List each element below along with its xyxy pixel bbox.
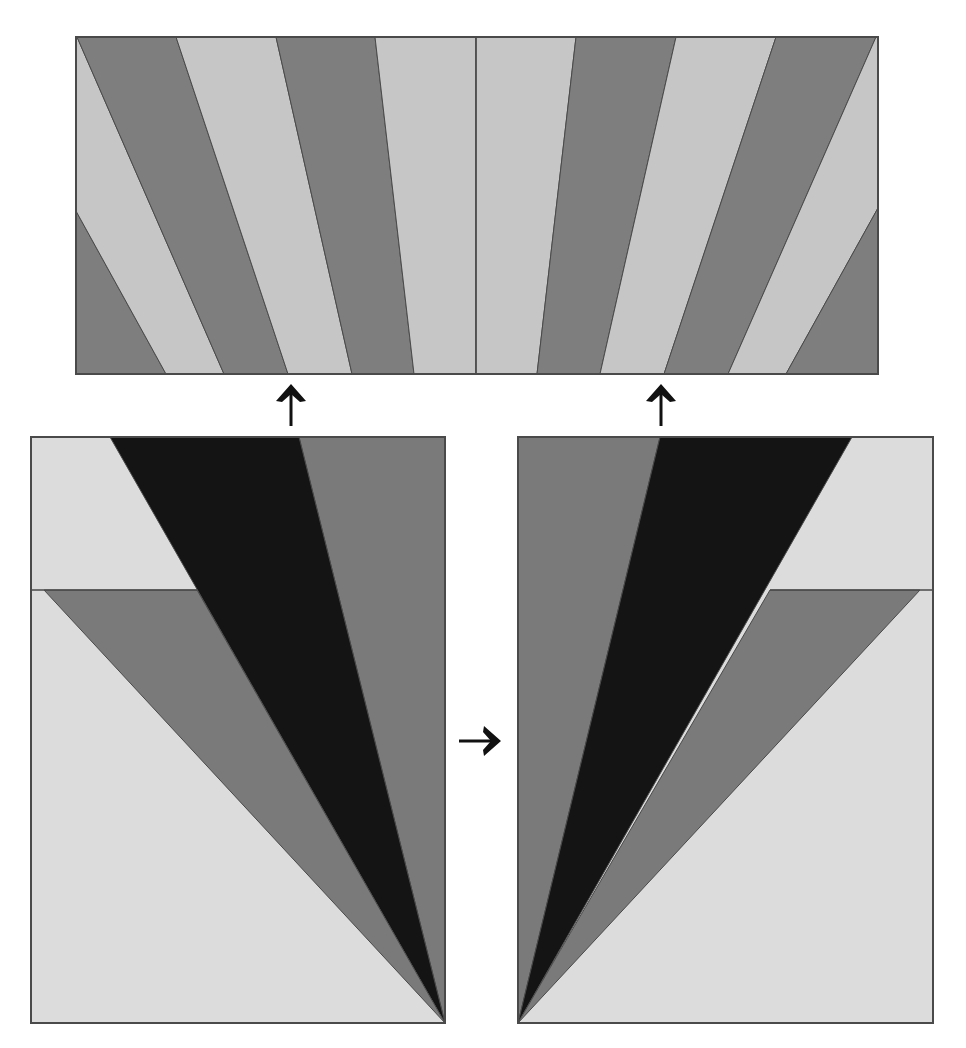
right-fan-block	[518, 437, 933, 1023]
quilt-assembly-diagram	[0, 0, 966, 1048]
left-fan-block	[31, 437, 445, 1023]
diagram-canvas	[0, 0, 966, 1048]
right-arrow-icon	[459, 726, 501, 756]
up-arrow-right-icon	[646, 384, 676, 426]
up-arrow-left-icon	[276, 384, 306, 426]
sunburst-strip-panel	[76, 37, 878, 374]
